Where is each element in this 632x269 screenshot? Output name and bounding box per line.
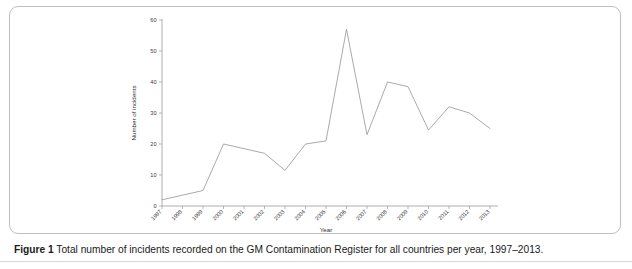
x-tick-label: 2000 xyxy=(211,208,224,221)
x-tick-label: 2013 xyxy=(478,208,491,221)
figure-caption-label: Figure 1 xyxy=(14,244,54,255)
data-series-group xyxy=(162,29,490,200)
x-axis: 1997199819992000200120022003200420052006… xyxy=(150,206,498,222)
y-tick-label: 0 xyxy=(153,203,156,209)
figure-panel: 0102030405060 19971998199920002001200220… xyxy=(9,6,621,234)
x-tick-label: 2007 xyxy=(355,208,368,221)
incidents-line-chart: 0102030405060 19971998199920002001200220… xyxy=(10,7,622,235)
y-axis-title: Number of incidents xyxy=(130,85,137,140)
x-tick-label: 2010 xyxy=(416,208,429,221)
x-tick-label: 2001 xyxy=(232,208,245,221)
y-tick-label: 40 xyxy=(150,79,156,85)
x-tick-label: 2005 xyxy=(314,208,327,221)
figure-caption: Figure 1 Total number of incidents recor… xyxy=(14,243,620,256)
x-axis-title: Year xyxy=(320,226,333,233)
x-tick-label: 2002 xyxy=(252,208,265,221)
x-tick-label: 2009 xyxy=(396,208,409,221)
chart-plot-area: 0102030405060 19971998199920002001200220… xyxy=(10,7,622,235)
x-tick-label: 2003 xyxy=(273,208,286,221)
x-tick-label: 1999 xyxy=(191,208,204,221)
y-tick-label: 60 xyxy=(150,17,156,23)
y-tick-label: 20 xyxy=(150,141,156,147)
bottom-divider xyxy=(0,261,632,262)
figure-container: 0102030405060 19971998199920002001200220… xyxy=(0,0,632,269)
x-tick-label: 1997 xyxy=(150,208,163,221)
x-tick-label: 1998 xyxy=(170,208,183,221)
y-axis: 0102030405060 xyxy=(150,17,162,209)
x-tick-label: 2011 xyxy=(437,208,450,221)
x-tick-label: 2006 xyxy=(334,208,347,221)
x-tick-label: 2004 xyxy=(293,208,306,221)
x-tick-label: 2012 xyxy=(457,208,470,221)
figure-caption-text: Total number of incidents recorded on th… xyxy=(56,244,543,255)
y-tick-label: 10 xyxy=(150,172,156,178)
x-tick-label: 2008 xyxy=(375,208,388,221)
y-tick-label: 50 xyxy=(150,48,156,54)
y-tick-label: 30 xyxy=(150,110,156,116)
data-line-total-incidents xyxy=(162,29,490,200)
